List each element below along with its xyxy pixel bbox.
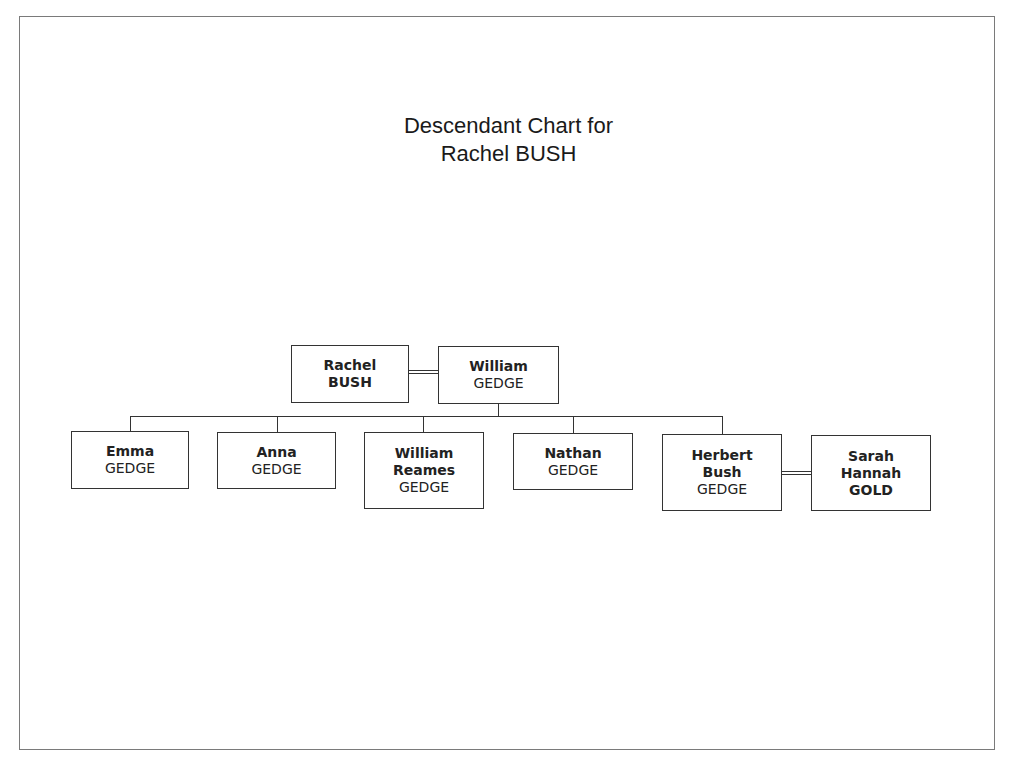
person-given-name: Emma	[106, 443, 154, 460]
person-given-name: Herbert	[691, 447, 752, 464]
person-given-name: Rachel	[324, 357, 377, 374]
chart-title-line1: Descendant Chart for	[0, 112, 1017, 140]
person-surname: GEDGE	[697, 481, 747, 498]
person-box-anna-gedge[interactable]: Anna GEDGE	[217, 432, 336, 489]
chart-title: Descendant Chart for Rachel BUSH	[0, 112, 1017, 168]
person-surname: GEDGE	[473, 375, 523, 392]
descent-stem-line	[498, 403, 499, 417]
person-surname: BUSH	[328, 374, 372, 391]
child-drop-line	[573, 416, 574, 434]
child-drop-line	[423, 416, 424, 433]
person-box-emma-gedge[interactable]: Emma GEDGE	[71, 431, 189, 489]
person-middle-name: Reames	[393, 462, 455, 479]
marriage-connector	[408, 370, 439, 374]
person-given-name: William	[395, 445, 454, 462]
child-drop-line	[130, 416, 131, 432]
person-surname: GOLD	[849, 482, 893, 499]
person-given-name: Sarah	[848, 448, 894, 465]
marriage-connector	[781, 471, 812, 475]
person-given-name: William	[469, 358, 528, 375]
sibling-bar-line	[130, 416, 723, 417]
person-middle-name: Hannah	[841, 465, 902, 482]
person-box-william-reames-gedge[interactable]: William Reames GEDGE	[364, 432, 484, 509]
person-box-william-gedge[interactable]: William GEDGE	[438, 346, 559, 404]
child-drop-line	[277, 416, 278, 433]
person-surname: GEDGE	[548, 462, 598, 479]
person-box-herbert-bush-gedge[interactable]: Herbert Bush GEDGE	[662, 434, 782, 511]
person-surname: GEDGE	[251, 461, 301, 478]
person-given-name: Anna	[256, 444, 296, 461]
person-surname: GEDGE	[399, 479, 449, 496]
person-surname: GEDGE	[105, 460, 155, 477]
person-box-rachel-bush[interactable]: Rachel BUSH	[291, 345, 409, 403]
person-middle-name: Bush	[703, 464, 742, 481]
person-given-name: Nathan	[544, 445, 601, 462]
person-box-nathan-gedge[interactable]: Nathan GEDGE	[513, 433, 633, 490]
person-box-sarah-hannah-gold[interactable]: Sarah Hannah GOLD	[811, 435, 931, 511]
chart-title-line2: Rachel BUSH	[0, 140, 1017, 168]
child-drop-line	[722, 416, 723, 435]
